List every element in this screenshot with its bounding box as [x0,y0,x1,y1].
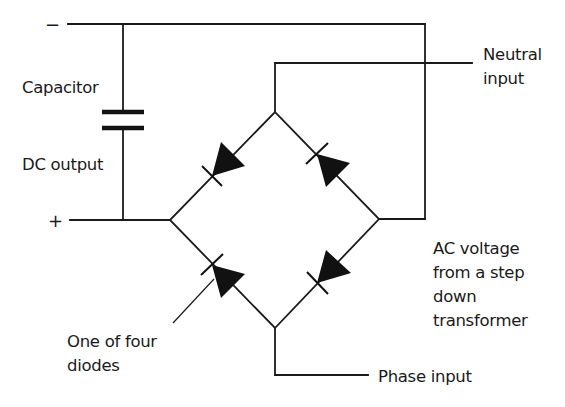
neutral-input-label-line2: input [483,69,525,88]
bridge-rectifier-diagram: − + Capacitor DC output Neutral input AC… [0,0,565,407]
ac-voltage-label-line4: transformer [433,311,528,330]
ac-voltage-label-line3: down [433,287,476,306]
bridge-diamond [170,112,379,328]
wires [68,24,472,375]
ac-voltage-label-line2: from a step [433,263,524,282]
capacitor-symbol [102,112,144,128]
diode-label-line2: diodes [67,356,120,375]
diode-label-line1: One of four [67,332,157,351]
minus-sign: − [45,14,60,35]
phase-input-label: Phase input [378,367,472,386]
capacitor-label: Capacitor [22,78,99,97]
neutral-input-label-line1: Neutral [483,45,542,64]
diode-pointer-line [173,279,214,323]
plus-sign: + [48,210,63,231]
dc-output-label: DC output [22,155,104,174]
ac-voltage-label-line1: AC voltage [433,239,520,258]
